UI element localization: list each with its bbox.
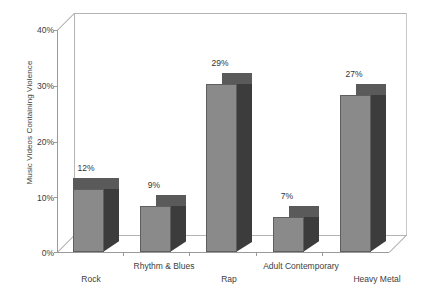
plot-depth-edge-top-left — [57, 13, 75, 31]
x-label-rhythm-blues: Rhythm & Blues — [112, 261, 216, 271]
bar-side-face — [236, 84, 252, 252]
y-tick-label-10: 10% — [20, 194, 54, 203]
y-axis-line — [57, 30, 58, 252]
x-tick-mark-1 — [123, 252, 124, 256]
bar-side-face — [370, 95, 386, 252]
bar-heavy-metal[interactable] — [340, 84, 386, 252]
bar-front-face — [140, 206, 171, 252]
x-tick-mark-4 — [322, 252, 323, 256]
plot-back-wall-top-edge — [74, 13, 407, 14]
bar-chart: Music Videos Containing Violence 40% 30%… — [0, 0, 424, 294]
bar-side-face — [103, 189, 119, 252]
bar-side-face — [170, 206, 186, 252]
bar-front-face — [340, 95, 371, 252]
bar-front-face — [273, 217, 304, 252]
bar-label-rock: 12% — [66, 163, 106, 173]
bar-top-face — [222, 73, 252, 84]
bar-label-rap: 29% — [200, 58, 240, 68]
bar-top-face — [289, 206, 319, 217]
bar-top-face — [89, 178, 119, 189]
x-label-rap: Rap — [199, 274, 259, 284]
bar-front-face — [73, 189, 104, 252]
x-axis-line — [57, 252, 389, 253]
bar-rap[interactable] — [206, 73, 252, 252]
plot-depth-edge-bottom-right — [389, 235, 407, 253]
bar-label-rhythm-blues: 9% — [134, 180, 174, 190]
bar-rhythm-blues[interactable] — [140, 195, 186, 252]
x-tick-mark-3 — [256, 252, 257, 256]
y-tick-label-40: 40% — [20, 26, 54, 35]
bar-top-face — [156, 195, 186, 206]
bar-label-adult-contemporary: 7% — [267, 191, 307, 201]
bar-top-face — [356, 84, 386, 95]
bar-front-face — [206, 84, 237, 252]
y-tick-label-20: 20% — [20, 138, 54, 147]
bar-rock[interactable] — [73, 178, 119, 252]
bar-side-face — [303, 217, 319, 252]
x-tick-mark-2 — [189, 252, 190, 256]
x-label-heavy-metal: Heavy Metal — [333, 274, 421, 284]
y-tick-label-30: 30% — [20, 82, 54, 91]
x-label-rock: Rock — [61, 274, 121, 284]
bar-adult-contemporary[interactable] — [273, 206, 319, 252]
y-axis-tick-labels: 40% 30% 20% 10% 0% — [18, 0, 54, 294]
y-tick-label-0: 0% — [20, 249, 54, 258]
bar-label-heavy-metal: 27% — [334, 69, 374, 79]
x-label-adult-contemporary: Adult Contemporary — [238, 261, 364, 271]
plot-back-wall-right-edge — [406, 13, 407, 235]
